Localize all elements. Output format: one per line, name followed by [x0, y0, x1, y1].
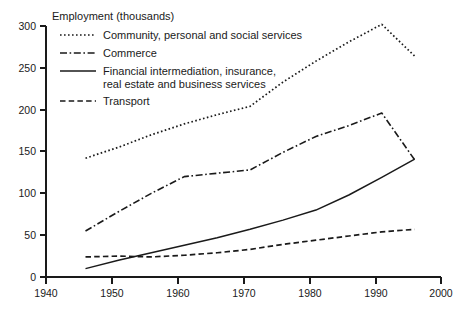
x-tick-label-1960: 1960 — [166, 287, 190, 299]
series-layer — [86, 24, 415, 268]
series-line-community-personal — [86, 24, 415, 158]
legend-label-community: Community, personal and social services — [103, 29, 303, 41]
y-tick-label-150: 150 — [18, 145, 36, 157]
legend-label-financial-line1: Financial intermediation, insurance, — [103, 65, 276, 77]
y-tick-label-250: 250 — [18, 62, 36, 74]
legend-label-transport: Transport — [103, 95, 150, 107]
legend-label-commerce: Commerce — [103, 47, 157, 59]
series-line-transport — [86, 229, 415, 257]
y-tick-label-50: 50 — [24, 229, 36, 241]
y-tick-label-100: 100 — [18, 187, 36, 199]
x-tick-label-1990: 1990 — [364, 287, 388, 299]
legend-label-financial-line2: real estate and business services — [103, 78, 266, 90]
x-tick-label-1950: 1950 — [100, 287, 124, 299]
x-tick-label-1980: 1980 — [298, 287, 322, 299]
chart-axis-title: Employment (thousands) — [52, 10, 174, 22]
x-tick-label-2000: 2000 — [429, 287, 453, 299]
employment-line-chart: 300 250 200 150 100 50 0 1940 1950 1960 … — [0, 0, 475, 316]
series-line-financial-intermediation — [86, 159, 415, 269]
y-tick-label-200: 200 — [18, 104, 36, 116]
x-tick-label-1970: 1970 — [232, 287, 256, 299]
y-tick-group — [40, 26, 46, 277]
x-tick-group — [46, 277, 441, 284]
chart-canvas: 300 250 200 150 100 50 0 1940 1950 1960 … — [0, 0, 475, 316]
y-tick-label-0: 0 — [30, 271, 36, 283]
y-tick-label-300: 300 — [18, 20, 36, 32]
series-line-commerce — [86, 113, 415, 231]
x-tick-label-1940: 1940 — [34, 287, 58, 299]
